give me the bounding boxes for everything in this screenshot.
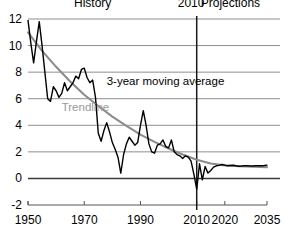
x-axis-tick-label: 2020: [211, 213, 238, 227]
chart-container: 121086420-2 195019701990201020202035 His…: [0, 0, 285, 233]
series-label-moving-average: 3-year moving average: [107, 75, 225, 87]
y-axis-tick-label: 12: [9, 12, 23, 26]
history-label: History: [74, 0, 111, 10]
y-axis-tick-label: 0: [15, 171, 22, 185]
x-axis-tick-labels: 195019701990201020202035: [15, 213, 281, 227]
y-axis-tick-label: 6: [15, 92, 22, 106]
x-axis: [28, 201, 267, 205]
x-axis-tick-label: 1970: [71, 213, 98, 227]
y-axis-tick-label: 4: [15, 118, 22, 132]
series-label-trendline: Trendline: [62, 101, 110, 113]
x-axis-tick-label: 2010: [183, 213, 210, 227]
x-axis-tick-label: 1990: [127, 213, 154, 227]
x-axis-tick-label: 2035: [254, 213, 281, 227]
y-axis-tick-label: -2: [11, 198, 22, 212]
projections-label: Projections: [201, 0, 260, 10]
y-axis-tick-label: 10: [9, 39, 23, 53]
y-axis-tick-label: 8: [15, 65, 22, 79]
y-axis-tick-labels: 121086420-2: [9, 12, 23, 212]
y-axis-tick-label: 2: [15, 145, 22, 159]
line-chart: 121086420-2 195019701990201020202035 His…: [0, 0, 285, 233]
x-axis-tick-label: 1950: [15, 213, 42, 227]
